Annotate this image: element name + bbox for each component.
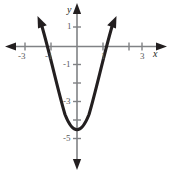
x-axis-label: x	[153, 49, 157, 59]
x-axis-right-arrowhead	[156, 42, 167, 50]
x-tick-label-pos1: 1	[101, 52, 106, 61]
y-tick-label-neg5: -5	[63, 134, 71, 143]
y-axis-top-arrowhead	[73, 3, 81, 14]
x-tick-label-neg1: -1	[45, 52, 53, 61]
y-tick-label-neg3: -3	[63, 97, 71, 106]
y-tick-label-neg1: -1	[63, 60, 71, 69]
x-axis-left-arrowhead	[5, 42, 16, 50]
graph-canvas	[0, 0, 170, 173]
parabola-graph-figure: -3 -1 1 3 1 -1 -3 -5 y x	[0, 0, 170, 173]
x-tick-label-neg3: -3	[18, 52, 26, 61]
curve-right-arrowhead	[107, 16, 116, 29]
y-axis-bottom-arrowhead	[73, 159, 81, 170]
x-tick-label-pos3: 3	[140, 52, 145, 61]
y-axis-label: y	[67, 5, 71, 15]
curve-left-arrowhead	[38, 16, 47, 29]
y-tick-label-pos1: 1	[67, 22, 72, 31]
